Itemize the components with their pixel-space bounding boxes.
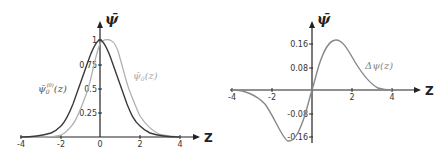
right-label-delta-psi: Δψ(z) [364, 60, 393, 71]
right-x-tick: -2 [268, 93, 276, 102]
right-x-axis-label: Z [425, 84, 434, 98]
right-y-tick: 0.16 [290, 40, 308, 49]
left-x-axis-label: Z [204, 131, 213, 145]
right-x-tick: 2 [349, 93, 354, 102]
left-label-psi0-0: ψ̄0(0)(z) [38, 82, 67, 95]
left-x-tick: 0 [97, 140, 102, 149]
left-x-tick: 2 [137, 140, 142, 149]
left-x-axis-arrow-icon [193, 134, 200, 140]
left-y-axis-arrow-icon [97, 21, 103, 28]
figure: -4 -2 0 2 4 1 0.75 0.5 0.25 ψ̄ Z ψ̄0(0)(… [0, 0, 444, 153]
left-y-tick: 0.25 [79, 109, 97, 118]
left-chart: -4 -2 0 2 4 1 0.75 0.5 0.25 ψ̄ Z ψ̄0(0)(… [17, 11, 213, 149]
right-x-tick: -4 [228, 93, 236, 102]
right-y-axis-label: ψ̄ [317, 11, 331, 27]
right-y-axis-arrow-icon [309, 21, 315, 28]
right-x-axis-arrow-icon [414, 87, 421, 93]
left-label-psi0: ψ̄0(z) [133, 70, 158, 82]
left-x-tick: -4 [17, 140, 25, 149]
right-chart: -4 -2 2 4 0.16 0.08 -0.08 -0.16 ψ̄ Z Δψ(… [228, 11, 434, 143]
left-x-tick: -2 [57, 140, 65, 149]
right-x-tick: 4 [389, 93, 394, 102]
left-y-axis-label: ψ̄ [105, 11, 119, 27]
left-x-tick: 4 [177, 140, 182, 149]
right-y-tick: 0.08 [290, 64, 308, 73]
